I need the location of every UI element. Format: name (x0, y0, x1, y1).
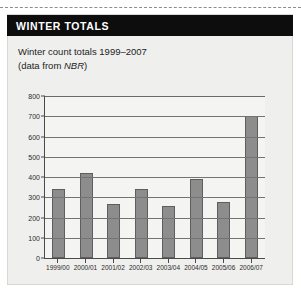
x-axis-label: 2003/04 (155, 264, 183, 271)
x-tick-cell (237, 258, 265, 263)
x-tick-cell (210, 258, 238, 263)
gridline (45, 96, 265, 97)
x-axis-label: 2002/03 (127, 264, 155, 271)
y-axis-label: 800 (28, 93, 40, 100)
chart-subtitle: Winter count totals 1999–2007 (data from… (18, 45, 268, 72)
y-axis-label: 200 (28, 214, 40, 221)
panel-header-bar: WINTER TOTALS (7, 15, 293, 36)
x-axis-tick (57, 258, 58, 263)
x-axis-label: 2006/07 (237, 264, 265, 271)
x-axis-label: 1999/00 (44, 264, 72, 271)
y-axis-tick (41, 116, 45, 117)
y-axis-label: 100 (28, 234, 40, 241)
y-axis-tick (41, 156, 45, 157)
gridline (45, 218, 265, 219)
y-axis-label: 0 (36, 255, 40, 262)
gridline (45, 177, 265, 178)
x-axis-tick (85, 258, 86, 263)
x-axis-tick (251, 258, 252, 263)
plot-area: 0100200300400500600700800 (44, 96, 265, 259)
x-axis-label: 2001/02 (99, 264, 127, 271)
x-tick-cell (155, 258, 183, 263)
gridline (45, 116, 265, 117)
gridline (45, 137, 265, 138)
gridline (45, 157, 265, 158)
gridline (45, 197, 265, 198)
x-tick-cell (99, 258, 127, 263)
x-tick-cell (44, 258, 72, 263)
bar-2005-06[interactable] (217, 202, 230, 258)
y-axis-tick (41, 177, 45, 178)
bar-2000-01[interactable] (80, 173, 93, 258)
y-axis-label: 500 (28, 153, 40, 160)
x-axis-ticks (44, 258, 265, 263)
bar-1999-00[interactable] (52, 189, 65, 258)
bar-2001-02[interactable] (107, 204, 120, 258)
x-axis-label: 2000/01 (72, 264, 100, 271)
bar-2004-05[interactable] (190, 179, 203, 258)
y-axis-label: 700 (28, 113, 40, 120)
x-axis-tick (223, 258, 224, 263)
x-tick-cell (182, 258, 210, 263)
subtitle-prefix: (data from (18, 60, 64, 71)
bar-2006-07[interactable] (245, 116, 258, 258)
data-source-name: NBR (64, 60, 84, 71)
bar-2002-03[interactable] (135, 189, 148, 258)
x-axis-tick (113, 258, 114, 263)
y-axis-tick (41, 136, 45, 137)
x-tick-cell (72, 258, 100, 263)
x-axis-tick (168, 258, 169, 263)
x-axis-tick (195, 258, 196, 263)
bar-2003-04[interactable] (162, 206, 175, 258)
y-axis-tick (41, 237, 45, 238)
x-axis-label: 2004/05 (182, 264, 210, 271)
subtitle-line-2: (data from NBR) (18, 59, 268, 73)
y-axis-tick (41, 217, 45, 218)
x-axis-label: 2005/06 (210, 264, 238, 271)
page: WINTER TOTALS Winter count totals 1999–2… (0, 0, 301, 289)
bar-chart: 0100200300400500600700800 1999/002000/01… (14, 90, 279, 276)
x-tick-cell (127, 258, 155, 263)
page-title: WINTER TOTALS (7, 20, 109, 32)
y-axis-tick (41, 197, 45, 198)
y-axis-tick (41, 96, 45, 97)
subtitle-suffix: ) (84, 60, 87, 71)
x-axis-labels: 1999/002000/012001/022002/032003/042004/… (44, 264, 265, 271)
y-axis-label: 300 (28, 194, 40, 201)
y-axis-label: 400 (28, 174, 40, 181)
dashed-cut-line (0, 7, 301, 8)
y-axis-label: 600 (28, 133, 40, 140)
subtitle-line-1: Winter count totals 1999–2007 (18, 46, 147, 57)
gridline (45, 238, 265, 239)
x-axis-tick (140, 258, 141, 263)
